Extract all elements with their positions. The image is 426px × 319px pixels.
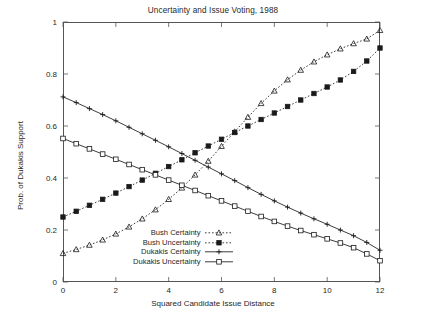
x-tick-label: 10	[307, 286, 347, 295]
legend-label: Dukakis Certainty	[141, 247, 204, 256]
y-tick-label: 1	[17, 18, 57, 27]
y-axis-label: Prob. of Dukakis Support	[16, 121, 25, 210]
legend-item: Dukakis Uncertainty	[133, 257, 234, 267]
series-bush-uncertainty	[61, 46, 382, 219]
x-tick-label: 4	[149, 286, 189, 295]
legend-item: Bush Certainty	[133, 228, 234, 238]
x-axis-label: Squared Candidate Issue Distance	[0, 299, 426, 308]
legend-marker-plus	[204, 247, 234, 257]
legend-label: Bush Certainty	[151, 228, 204, 237]
chart-legend: Bush CertaintyBush UncertaintyDukakis Ce…	[133, 228, 234, 266]
legend-marker-triangle	[204, 228, 234, 238]
x-tick-label: 12	[360, 286, 400, 295]
x-tick-label: 2	[96, 286, 136, 295]
legend-item: Dukakis Certainty	[133, 247, 234, 257]
chart-canvas: Uncertainty and Issue Voting, 1988 Prob.…	[0, 0, 426, 319]
legend-label: Bush Uncertainty	[143, 238, 204, 247]
chart-title: Uncertainty and Issue Voting, 1988	[0, 6, 426, 15]
y-tick-label: 0.6	[17, 122, 57, 131]
y-tick-label: 0.2	[17, 226, 57, 235]
x-tick-label: 0	[43, 286, 83, 295]
legend-label: Dukakis Uncertainty	[133, 257, 204, 266]
legend-marker-square-open	[204, 257, 234, 267]
x-tick-label: 8	[254, 286, 294, 295]
legend-item: Bush Uncertainty	[133, 238, 234, 248]
x-tick-label: 6	[202, 286, 242, 295]
legend-marker-square-filled	[204, 238, 234, 248]
y-tick-label: 0.4	[17, 174, 57, 183]
y-tick-label: 0.8	[17, 70, 57, 79]
